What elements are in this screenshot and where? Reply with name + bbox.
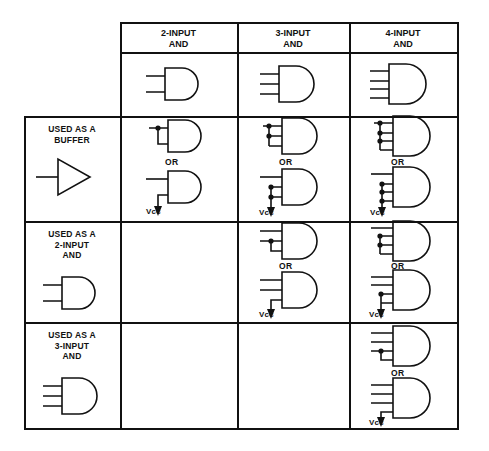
cell-3input-and-from-4input: OR Vcc (349, 322, 457, 428)
cell-symbol-2input (120, 52, 237, 116)
vcc-label: Vcc (370, 208, 385, 217)
junction-dot (377, 130, 382, 135)
junction-dot (266, 133, 271, 138)
or-label: OR (391, 261, 404, 271)
junction-dot (268, 184, 273, 189)
row-symbol-buffer (24, 147, 120, 207)
junction-dot (266, 123, 271, 128)
or-label: OR (279, 261, 292, 271)
row-symbol-3input-and (24, 370, 120, 424)
junction-dot (268, 238, 273, 243)
junction-dot (377, 233, 382, 238)
row-label-3input-and: USED AS A 3-INPUT AND (24, 330, 120, 362)
cell-buffer-3input: OR Vcc (237, 116, 349, 221)
junction-dot (379, 198, 384, 203)
grid-line-h-top (120, 22, 459, 24)
and-gate-2-input-symbol (120, 52, 237, 116)
cell-3input-and-from-2input (120, 322, 237, 428)
buffer-from-4input-and-variants (349, 116, 457, 221)
buffer-from-2input-and-variants (120, 116, 237, 221)
vcc-label: Vcc (259, 310, 274, 319)
cell-2input-and-from-4input: OR Vcc (349, 221, 457, 322)
or-label: OR (165, 157, 178, 167)
junction-dot (378, 348, 383, 353)
cell-symbol-3input (237, 52, 349, 116)
grid-line-h-bottom (24, 428, 459, 430)
two-input-and-from-3input-variants (237, 221, 349, 322)
junction-dot (379, 181, 384, 186)
junction-dot (155, 125, 160, 130)
junction-dot (268, 194, 273, 199)
row-label-2input-and: USED AS A 2-INPUT AND (24, 229, 120, 261)
vcc-label: Vcc (369, 418, 384, 427)
junction-dot (379, 189, 384, 194)
and-gate-3-input-symbol (24, 370, 120, 424)
column-header-3input-and: 3-INPUT AND (237, 28, 349, 50)
cell-symbol-4input (349, 52, 457, 116)
and-gate-4-input-symbol (349, 52, 457, 116)
row-label-buffer: USED AS A BUFFER (24, 124, 120, 145)
gate-configuration-table: 2-INPUT AND 3-INPUT AND 4-INPUT AND USED… (24, 22, 459, 430)
cell-2input-and-from-2input (120, 221, 237, 322)
or-label: OR (391, 368, 404, 378)
vcc-label: Vcc (259, 208, 274, 217)
cell-buffer-2input: OR Vcc (120, 116, 237, 221)
grid-line-v-right (457, 22, 459, 430)
junction-dot (377, 138, 382, 143)
or-label: OR (391, 157, 404, 167)
junction-dot (377, 120, 382, 125)
junction-dot (378, 291, 383, 296)
cell-buffer-4input: OR Vcc (349, 116, 457, 221)
column-header-4input-and: 4-INPUT AND (349, 28, 457, 50)
diagram-sheet: 2-INPUT AND 3-INPUT AND 4-INPUT AND USED… (0, 0, 489, 451)
buffer-from-3input-and-variants (237, 116, 349, 221)
and-gate-2-input-symbol (24, 267, 120, 319)
buffer-triangle-symbol (24, 147, 120, 207)
or-label: OR (279, 157, 292, 167)
row-symbol-2input-and (24, 267, 120, 319)
column-header-2input-and: 2-INPUT AND (120, 28, 237, 50)
junction-dot (377, 242, 382, 247)
cell-2input-and-from-3input: OR Vcc (237, 221, 349, 322)
two-input-and-from-4input-variants (349, 221, 457, 322)
and-gate-3-input-symbol (237, 52, 349, 116)
vcc-label: Vcc (146, 207, 161, 216)
cell-3input-and-from-3input (237, 322, 349, 428)
vcc-label: Vcc (369, 310, 384, 319)
